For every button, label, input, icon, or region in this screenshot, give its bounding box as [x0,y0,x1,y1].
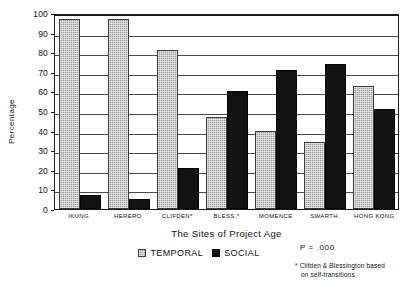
y-axis-tick-label: 10 [38,186,48,194]
bar-social[interactable] [325,64,346,209]
bar-social[interactable] [374,109,395,209]
y-axis-tick-label: 90 [38,30,48,38]
y-axis-tick-label: 40 [38,128,48,136]
y-axis-title: Percentage [2,56,20,186]
y-axis-tick-label: 30 [38,147,48,155]
bar-temporal[interactable] [157,50,178,209]
legend-swatch-temporal [138,249,146,257]
y-axis-tick-label: 70 [38,69,48,77]
footnote-line-1: * Clifden & Blessington based [295,262,385,269]
x-axis-category-label: MOMENCE [251,213,300,225]
bar-group [202,16,251,209]
legend-label: SOCIAL [224,248,259,258]
bar-group [153,16,202,209]
y-axis-tick-label: 20 [38,167,48,175]
bar-social[interactable] [227,91,248,209]
bar-chart-figure: Percentage 1009080706050403020100 IKUNGH… [0,0,412,287]
legend-label: TEMPORAL [150,248,203,258]
x-axis-category-labels: IKUNGHEREROCLIFDEN*BLESS.*MOMENCESWARTH.… [54,213,399,225]
bar-temporal[interactable] [304,142,325,209]
legend-swatch-social [212,249,220,257]
bar-group [104,16,153,209]
y-axis-tick-label: 50 [38,108,48,116]
bar-group [349,16,398,209]
y-axis-tick-mark [51,210,54,211]
bar-temporal[interactable] [255,131,276,209]
bar-social[interactable] [276,70,297,209]
y-axis-title-text: Percentage [7,99,16,144]
x-axis-category-label: HONG KONG [350,213,399,225]
bar-social[interactable] [129,199,150,209]
x-axis-category-label: BLESS.* [202,213,251,225]
bar-temporal[interactable] [206,117,227,209]
y-axis-tick-label: 0 [43,206,48,214]
p-value-annotation: P = .000 [300,243,335,252]
plot-area [54,14,399,210]
x-axis-title: The Sites of Project Age [54,228,399,239]
x-axis-category-label: IKUNG [54,213,103,225]
bar-temporal[interactable] [108,19,129,209]
bar-social[interactable] [80,195,101,209]
bar-temporal[interactable] [59,19,80,209]
bar-group [300,16,349,209]
x-axis-category-label: SWARTH. [300,213,349,225]
legend-item[interactable]: TEMPORAL [138,248,203,258]
bar-temporal[interactable] [353,86,374,209]
bar-group [251,16,300,209]
x-axis-category-label: HERERO [103,213,152,225]
y-axis-tick-label: 60 [38,88,48,96]
footnote-line-2: on self-transitions [295,270,412,279]
legend-item[interactable]: SOCIAL [212,248,259,258]
x-axis-category-label: CLIFDEN* [153,213,202,225]
bar-social[interactable] [178,168,199,209]
y-axis-tick-label: 80 [38,49,48,57]
asterisk-footnote: * Clifden & Blessington based on self-tr… [295,261,412,279]
y-axis-tick-label: 100 [33,10,48,18]
bar-group [55,16,104,209]
bar-groups [55,16,398,209]
y-axis-tick-labels: 1009080706050403020100 [20,14,51,210]
